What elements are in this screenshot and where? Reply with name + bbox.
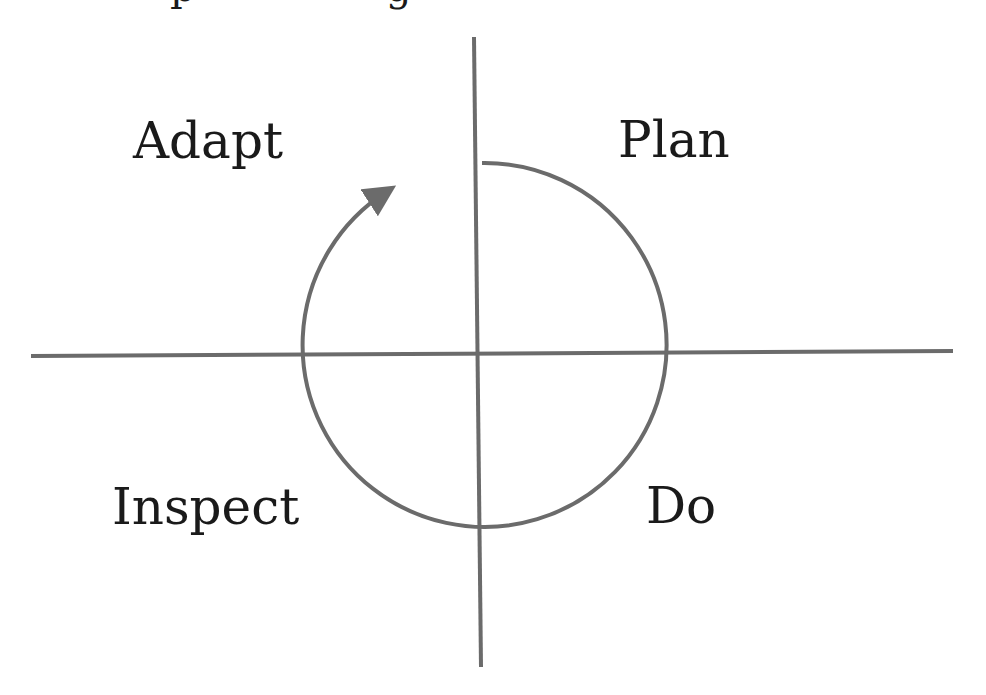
label-plan: Plan [618, 115, 730, 165]
label-inspect: Inspect [112, 482, 299, 532]
cycle-diagram [0, 0, 986, 695]
horizontal-axis [31, 351, 953, 356]
label-adapt: Adapt [133, 116, 283, 166]
cycle-arrow-arc [303, 163, 667, 527]
label-do: Do [646, 481, 716, 531]
